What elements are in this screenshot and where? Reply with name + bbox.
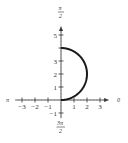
- y-tick-label: 1: [54, 84, 58, 92]
- y-tick-label: 3: [54, 58, 58, 66]
- y-tick-label: 2: [54, 71, 58, 79]
- polar-curve: [61, 48, 87, 100]
- axis-label-3pi-over-2-num: 3π: [56, 120, 64, 126]
- axes: [16, 26, 110, 118]
- y-tick-label: 5: [54, 32, 58, 40]
- x-tick-label: −3: [18, 103, 26, 111]
- polar-chart: −3−2−1123−11235 π 0 π 2 3π 2: [0, 0, 128, 143]
- axis-label-3pi-over-2-den: 2: [59, 128, 62, 134]
- x-tick-label: −2: [31, 103, 39, 111]
- axis-label-pi-over-2-den: 2: [59, 13, 62, 19]
- y-tick-label: −1: [50, 110, 58, 118]
- x-tick-label: 2: [85, 103, 89, 111]
- axis-label-pi: π: [6, 97, 10, 103]
- x-tick-label: 3: [98, 103, 102, 111]
- ticks: −3−2−1123−11235: [18, 32, 102, 118]
- axis-label-pi-over-2-num: π: [59, 5, 63, 11]
- x-tick-label: 1: [72, 103, 76, 111]
- axis-label-zero: 0: [117, 97, 120, 103]
